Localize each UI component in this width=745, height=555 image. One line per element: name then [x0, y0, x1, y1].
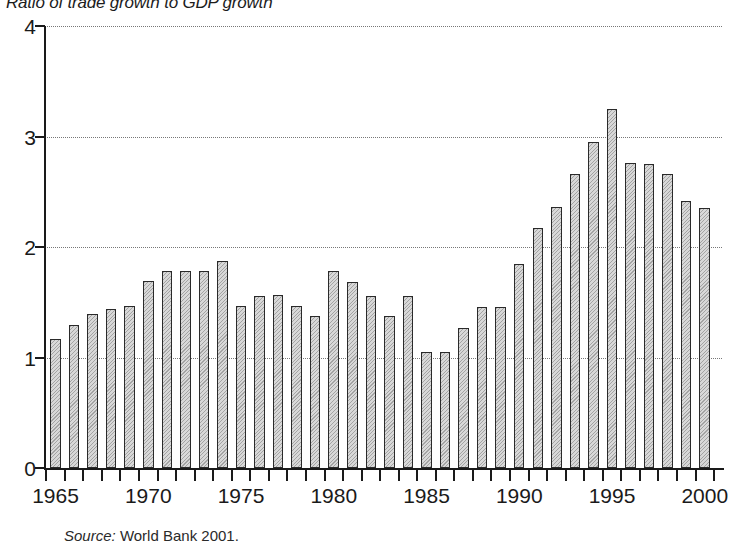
bar	[533, 228, 544, 468]
x-axis-tick	[639, 470, 641, 481]
x-axis-tick	[286, 470, 288, 481]
x-axis-tick	[676, 470, 678, 481]
bar	[588, 142, 599, 468]
x-axis-tick	[305, 470, 307, 481]
x-axis-tick	[175, 470, 177, 481]
bars-group	[44, 26, 722, 468]
bar	[440, 352, 451, 468]
x-axis-label: 1995	[589, 485, 636, 506]
bar	[625, 163, 636, 468]
bar	[50, 339, 61, 468]
x-axis-tick	[249, 470, 251, 481]
x-axis-tick	[490, 470, 492, 481]
bar	[124, 306, 135, 468]
x-axis-tick	[101, 470, 103, 481]
bar	[347, 282, 358, 468]
bar	[384, 316, 395, 468]
x-axis-label: 1965	[32, 485, 79, 506]
x-axis-tick	[472, 470, 474, 481]
x-axis-tick	[138, 470, 140, 481]
bar	[421, 352, 432, 468]
x-axis-tick	[342, 470, 344, 481]
bar	[180, 271, 191, 468]
bar	[143, 281, 154, 468]
y-axis-label: 2	[24, 237, 36, 258]
x-axis-tick	[64, 470, 66, 481]
x-axis-tick	[379, 470, 381, 481]
source-text: World Bank 2001.	[120, 527, 239, 544]
x-axis-tick	[194, 470, 196, 481]
x-axis-tick	[82, 470, 84, 481]
bar	[699, 208, 710, 468]
x-axis-label: 1990	[496, 485, 543, 506]
bar	[87, 314, 98, 468]
x-axis-tick	[324, 470, 326, 481]
x-axis-tick	[45, 470, 47, 481]
bar	[199, 271, 210, 468]
x-axis-label: 1985	[403, 485, 450, 506]
x-axis-tick	[528, 470, 530, 481]
bar	[607, 109, 618, 468]
x-axis-tick	[361, 470, 363, 481]
bar	[69, 325, 80, 468]
x-axis-tick	[157, 470, 159, 481]
bar	[681, 201, 692, 468]
y-axis-label: 4	[24, 16, 36, 37]
bar	[495, 307, 506, 468]
x-axis-label: 1975	[218, 485, 265, 506]
y-axis-label: 3	[24, 126, 36, 147]
bar	[366, 296, 377, 468]
x-axis-tick	[546, 470, 548, 481]
x-axis-tick	[620, 470, 622, 481]
x-axis-tick	[713, 470, 715, 481]
x-axis-tick	[231, 470, 233, 481]
x-axis-tick	[602, 470, 604, 481]
x-axis-label: 2000	[681, 485, 728, 506]
bar	[644, 164, 655, 468]
x-axis-tick	[119, 470, 121, 481]
bar	[328, 271, 339, 468]
bar	[106, 309, 117, 468]
bar	[162, 271, 173, 468]
y-axis-label: 0	[24, 458, 36, 479]
bar	[254, 296, 265, 468]
bar	[291, 306, 302, 468]
bar	[236, 306, 247, 468]
bar	[570, 174, 581, 468]
x-axis-tick	[453, 470, 455, 481]
bar	[662, 174, 673, 468]
x-axis-tick	[565, 470, 567, 481]
x-axis-label: 1980	[310, 485, 357, 506]
source-label: Source:	[64, 527, 116, 544]
bar	[403, 296, 414, 468]
x-axis-tick	[416, 470, 418, 481]
bar	[273, 295, 284, 468]
source-note: Source: World Bank 2001.	[64, 527, 239, 544]
x-axis-tick	[657, 470, 659, 481]
bar	[310, 316, 321, 468]
x-axis-tick	[695, 470, 697, 481]
x-axis-tick	[268, 470, 270, 481]
page-title: Ratio of trade growth to GDP growth	[6, 0, 272, 13]
x-axis-label: 1970	[125, 485, 172, 506]
x-axis-tick	[212, 470, 214, 481]
bar	[458, 328, 469, 468]
bar	[551, 207, 562, 468]
x-axis-tick	[435, 470, 437, 481]
bar	[477, 307, 488, 468]
bar	[514, 264, 525, 468]
bar	[217, 261, 228, 468]
y-axis-label: 1	[24, 347, 36, 368]
x-axis-tick	[583, 470, 585, 481]
x-axis-tick	[398, 470, 400, 481]
x-axis-tick	[509, 470, 511, 481]
